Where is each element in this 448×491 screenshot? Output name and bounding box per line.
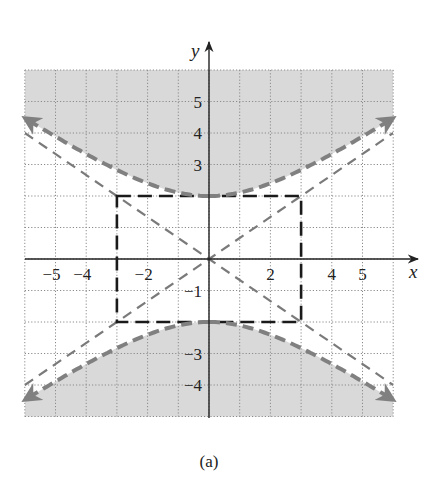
x-tick-label: 4 (328, 265, 337, 284)
x-tick-label: 2 (266, 265, 275, 284)
y-tick-label: 4 (194, 124, 203, 143)
y-tick-label: −3 (184, 345, 202, 364)
y-tick-label: 3 (194, 156, 203, 175)
y-axis-label: y (189, 40, 200, 61)
x-axis-label: x (408, 261, 418, 282)
x-tick-label: −2 (135, 265, 153, 284)
y-tick-label: −1 (184, 282, 202, 301)
x-tick-label: −4 (73, 265, 92, 284)
x-tick-label: −5 (42, 265, 60, 284)
hyperbola-chart: x y −5−4−2245543−1−3−4 (0, 0, 448, 491)
x-tick-label: 5 (358, 265, 367, 284)
figure-caption: (a) (0, 452, 418, 472)
y-tick-label: −4 (184, 376, 203, 395)
y-tick-label: 5 (194, 93, 203, 112)
